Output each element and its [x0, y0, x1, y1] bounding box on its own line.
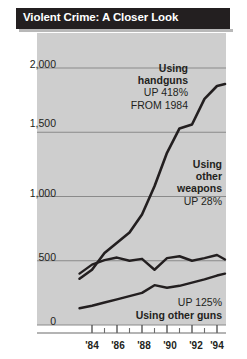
annotation-other-guns-pct: UP 125%: [150, 296, 222, 308]
annotation-other-weapons: Using other weapons UP 28%: [150, 158, 222, 207]
annotation-handguns-line2: handguns: [96, 74, 188, 86]
annotation-handguns-line4: FROM 1984: [96, 99, 188, 111]
annotation-other-weapons-line1: Using: [150, 158, 222, 170]
annotation-handguns: Using handguns UP 418% FROM 1984: [96, 62, 188, 111]
y-tick-label: 2,000: [0, 58, 56, 70]
violent-crime-chart: Violent Crime: A Closer Look 2,000 1,500…: [0, 0, 247, 359]
y-tick-label: 500: [0, 251, 56, 263]
annotation-other-weapons-line2: other: [150, 170, 222, 182]
annotation-other-weapons-line3: weapons: [150, 182, 222, 194]
x-tick-label: '86: [105, 340, 131, 351]
y-tick-label: 0: [0, 315, 56, 327]
annotation-other-weapons-line4: UP 28%: [150, 195, 222, 207]
x-tick-label: '90: [157, 340, 183, 351]
x-axis-ticks: [92, 325, 217, 333]
x-tick-label: '94: [204, 340, 230, 351]
x-tick-label: '88: [131, 340, 157, 351]
y-tick-label: 1,000: [0, 187, 56, 199]
x-tick-label: '84: [79, 340, 105, 351]
annotation-other-guns-label: Using other guns: [96, 309, 222, 321]
annotation-handguns-line3: UP 418%: [96, 86, 188, 98]
y-tick-label: 1,500: [0, 117, 56, 129]
annotation-handguns-line1: Using: [96, 62, 188, 74]
